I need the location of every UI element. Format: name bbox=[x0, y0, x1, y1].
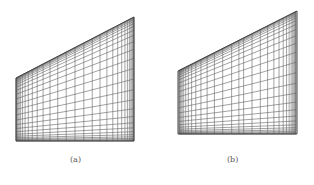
caption-b: (b) bbox=[227, 155, 238, 164]
mesh-panel-b bbox=[178, 11, 297, 134]
mesh-panel-a bbox=[16, 17, 134, 141]
mesh-figure bbox=[0, 0, 314, 185]
caption-a: (a) bbox=[70, 155, 81, 164]
